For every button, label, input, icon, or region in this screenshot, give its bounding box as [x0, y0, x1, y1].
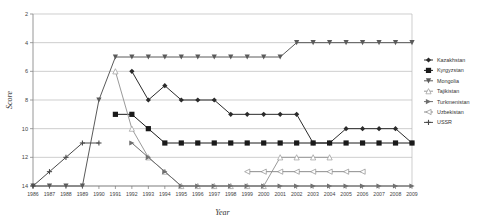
data-point-marker — [360, 126, 365, 131]
xtick-label: 2006 — [357, 191, 369, 197]
ytick-label: 4 — [25, 40, 28, 46]
legend-item-kazakhstan[interactable]: Kazakhstan — [424, 57, 465, 63]
data-point-marker — [426, 99, 431, 104]
xtick-label: 2002 — [291, 191, 303, 197]
xtick-label: 2007 — [373, 191, 385, 197]
data-point-marker — [327, 140, 332, 145]
data-point-marker — [195, 140, 200, 145]
xtick-label: 2003 — [307, 191, 319, 197]
xtick-label: 1990 — [93, 191, 105, 197]
xtick-label: 1988 — [60, 191, 72, 197]
series-mongolia — [30, 40, 414, 189]
legend-item-ussr[interactable]: USSR — [424, 119, 452, 125]
data-point-marker — [162, 140, 167, 145]
data-point-marker — [212, 140, 217, 145]
xtick-label: 2001 — [274, 191, 286, 197]
line-chart: 2468101214198619871988198919901991199219… — [0, 0, 493, 218]
data-point-marker — [245, 140, 250, 145]
chart-root: 2468101214198619871988198919901991199219… — [0, 0, 493, 218]
series-line — [132, 143, 412, 186]
data-point-marker — [113, 112, 118, 117]
series-turkmenistan — [129, 140, 414, 188]
legend-label: Kazakhstan — [437, 57, 465, 63]
legend-label: Mongolia — [437, 78, 459, 84]
data-point-marker — [179, 140, 184, 145]
data-point-marker — [245, 112, 250, 117]
data-point-marker — [129, 69, 134, 74]
data-point-marker — [376, 126, 381, 131]
data-point-marker — [195, 97, 200, 102]
xtick-label: 1987 — [44, 191, 56, 197]
data-point-marker — [343, 169, 348, 174]
data-point-marker — [426, 120, 431, 125]
data-point-marker — [426, 57, 431, 62]
xtick-label: 1993 — [143, 191, 155, 197]
ytick-label: 12 — [22, 154, 28, 160]
legend-item-uzbekistan[interactable]: Uzbekistan — [424, 109, 464, 115]
xtick-label: 1989 — [77, 191, 89, 197]
ytick-label: 8 — [25, 97, 28, 103]
data-point-marker — [278, 112, 283, 117]
ytick-label: 10 — [22, 126, 28, 132]
legend-label: Turkmenistan — [437, 99, 469, 105]
legend-item-turkmenistan[interactable]: Turkmenistan — [424, 99, 469, 105]
ytick-label: 6 — [25, 68, 28, 74]
data-point-marker — [426, 68, 431, 73]
data-point-marker — [409, 140, 414, 145]
data-point-marker — [294, 112, 299, 117]
data-point-marker — [360, 140, 365, 145]
xtick-label: 1995 — [176, 191, 188, 197]
xtick-label: 1998 — [225, 191, 237, 197]
xtick-label: 2000 — [258, 191, 270, 197]
legend-label: Tajikistan — [437, 88, 459, 94]
xtick-label: 2004 — [324, 191, 336, 197]
xtick-label: 1997 — [208, 191, 220, 197]
data-point-marker — [228, 140, 233, 145]
data-point-marker — [294, 140, 299, 145]
data-point-marker — [261, 140, 266, 145]
legend-item-kyrgyzstan[interactable]: Kyrgyzstan — [424, 67, 464, 73]
series-line — [132, 71, 412, 143]
xtick-label: 2005 — [340, 191, 352, 197]
xtick-label: 1992 — [126, 191, 138, 197]
xtick-label: 1991 — [110, 191, 122, 197]
legend-item-tajikistan[interactable]: Tajikistan — [424, 88, 459, 94]
legend-label: USSR — [437, 119, 452, 125]
data-point-marker — [129, 112, 134, 117]
xtick-label: 1986 — [27, 191, 39, 197]
xtick-label: 1999 — [241, 191, 253, 197]
data-point-marker — [278, 140, 283, 145]
xtick-label: 1996 — [192, 191, 204, 197]
data-point-marker — [327, 169, 332, 174]
xtick-label: 2009 — [406, 191, 418, 197]
data-point-marker — [311, 140, 316, 145]
series-line — [33, 43, 412, 186]
x-axis-title: Year — [215, 208, 230, 217]
series-uzbekistan — [245, 169, 366, 174]
data-point-marker — [261, 112, 266, 117]
data-point-marker — [261, 169, 266, 174]
data-point-marker — [376, 140, 381, 145]
data-point-marker — [360, 169, 365, 174]
series-ussr — [30, 140, 101, 188]
data-point-marker — [426, 109, 431, 114]
data-point-marker — [278, 169, 283, 174]
xtick-label: 2008 — [390, 191, 402, 197]
ytick-label: 14 — [22, 183, 28, 189]
data-point-marker — [245, 169, 250, 174]
xtick-label: 1994 — [159, 191, 171, 197]
legend-item-mongolia[interactable]: Mongolia — [424, 78, 459, 84]
series-kazakhstan — [129, 69, 414, 146]
data-point-marker — [146, 126, 151, 131]
legend-label: Kyrgyzstan — [437, 67, 464, 73]
data-point-marker — [393, 140, 398, 145]
y-axis-title: Score — [5, 91, 14, 109]
data-point-marker — [311, 169, 316, 174]
ytick-label: 2 — [25, 11, 28, 17]
legend-label: Uzbekistan — [437, 109, 464, 115]
data-point-marker — [96, 140, 101, 145]
data-point-marker — [294, 169, 299, 174]
data-point-marker — [343, 140, 348, 145]
